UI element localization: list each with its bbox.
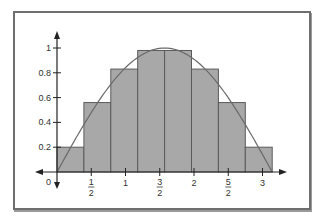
bars-group bbox=[57, 50, 272, 172]
y-tick-label: 0.6 bbox=[38, 93, 51, 103]
x-tick-label-denominator: 2 bbox=[89, 188, 94, 198]
bar bbox=[84, 103, 111, 172]
y-tick-label: 0.8 bbox=[38, 68, 51, 78]
bar bbox=[57, 147, 84, 172]
x-tick-label-numerator: 3 bbox=[157, 177, 162, 187]
y-axis-arrow-down-icon bbox=[54, 182, 60, 189]
bar bbox=[165, 50, 192, 172]
y-axis-arrow-up-icon bbox=[54, 31, 60, 39]
bar bbox=[191, 69, 218, 172]
bar bbox=[138, 50, 165, 172]
riemann-sum-chart: 0.20.40.60.81 121322523 0 bbox=[0, 0, 329, 222]
x-tick-label-numerator: 1 bbox=[89, 177, 94, 187]
bar bbox=[111, 69, 138, 172]
y-tick-label: 1 bbox=[46, 43, 51, 53]
y-tick-label: 0.4 bbox=[38, 117, 51, 127]
origin-label: 0 bbox=[46, 177, 51, 187]
y-tick-label: 0.2 bbox=[38, 142, 51, 152]
bar bbox=[218, 103, 245, 172]
x-tick-label: 3 bbox=[260, 178, 265, 188]
x-tick-label-denominator: 2 bbox=[226, 188, 231, 198]
bar bbox=[245, 147, 272, 172]
x-tick-label-numerator: 5 bbox=[226, 177, 231, 187]
x-tick-label-denominator: 2 bbox=[157, 188, 162, 198]
x-tick-label: 1 bbox=[123, 178, 128, 188]
x-tick-label: 2 bbox=[191, 178, 196, 188]
x-axis-arrow-right-icon bbox=[279, 169, 287, 175]
y-ticks: 0.20.40.60.81 bbox=[38, 43, 61, 152]
x-axis-arrow-left-icon bbox=[35, 169, 43, 175]
